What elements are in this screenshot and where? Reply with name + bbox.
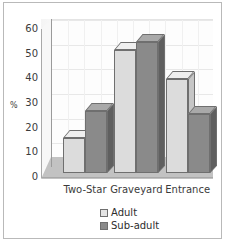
legend-item-label: Adult [111,207,137,218]
bar-graveyard-adult [114,50,136,173]
y-axis-ticks: 6050403020100 [16,19,38,181]
bar-graveyard-sub-adult [136,42,158,173]
chart-legend: AdultSub-adult [100,206,190,232]
bar-front-face [63,138,85,173]
x-axis-line [41,177,213,178]
legend-item-sub-adult: Sub-adult [100,219,190,232]
legend-item-label: Sub-adult [111,220,159,231]
y-axis-tick-label: 0 [18,172,38,182]
bar-front-face [114,50,136,173]
bar-side-face [107,104,114,173]
y-axis-tick-label: 20 [18,123,38,133]
bar-entrance-adult [166,79,188,173]
bar-two-star-adult [63,138,85,173]
y-axis-tick-label: 10 [18,147,38,157]
bar-front-face [136,42,158,173]
bar-front-face [166,79,188,173]
x-axis-ticks: Two-StarGraveyardEntrance [41,184,219,198]
bar-front-face [85,111,107,173]
legend-swatch-icon [100,209,108,217]
bar-entrance-sub-adult [188,114,210,173]
bar-side-face [210,106,217,173]
legend-item-adult: Adult [100,206,190,219]
chart-frame: % 6050403020100 Two-StarGraveyardEntranc… [3,2,222,239]
y-axis-line-back [51,19,52,167]
plot-area [41,19,213,181]
bar-side-face [158,35,165,173]
x-axis-tick-label: Entrance [158,184,218,196]
y-axis-tick-label: 40 [18,73,38,83]
bar-front-face [188,114,210,173]
y-axis-tick-label: 30 [18,98,38,108]
y-axis-tick-label: 60 [18,24,38,34]
y-axis-line [41,29,42,177]
legend-swatch-icon [100,222,108,230]
y-axis-tick-label: 50 [18,49,38,59]
bar-two-star-sub-adult [85,111,107,173]
